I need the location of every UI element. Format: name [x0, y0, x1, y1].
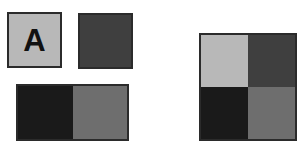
quadrant-top-left — [201, 35, 248, 87]
four-quadrant-square — [199, 33, 297, 141]
figure-canvas: A — [0, 0, 305, 154]
two-tone-right-half — [73, 86, 128, 139]
quadrant-bottom-right — [248, 87, 295, 139]
quadrant-bottom-left — [201, 87, 248, 139]
solid-dark-square — [78, 13, 133, 69]
labeled-square-a: A — [7, 12, 62, 68]
square-label-a: A — [23, 25, 45, 56]
two-tone-rectangle — [16, 84, 129, 141]
quadrant-top-right — [248, 35, 295, 87]
two-tone-left-half — [18, 86, 73, 139]
